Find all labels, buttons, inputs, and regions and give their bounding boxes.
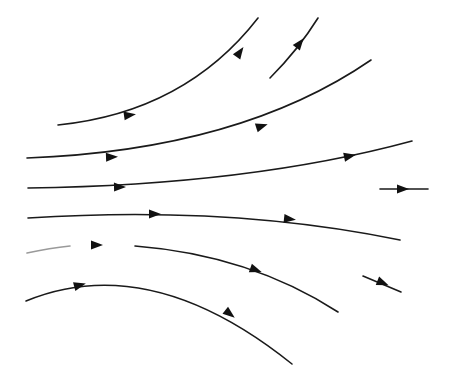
arrowhead-icon [91, 241, 103, 250]
arrowhead-icon [249, 264, 263, 277]
streamline-5 [380, 185, 428, 194]
streamline-path [135, 246, 338, 312]
arrowhead-icon [376, 277, 390, 290]
streamline-diagram [0, 0, 449, 386]
arrowhead-icon [73, 279, 87, 291]
streamline-path [26, 285, 292, 364]
arrowhead-icon [397, 185, 409, 194]
streamline-path [58, 18, 258, 125]
streamline-8 [363, 276, 401, 292]
streamline-4 [28, 141, 412, 192]
arrowhead-icon [233, 45, 247, 60]
arrowhead-icon [114, 182, 126, 191]
streamline-1 [58, 18, 258, 125]
streamline-6 [28, 210, 400, 241]
streamline-9 [26, 279, 292, 364]
streamline-2 [270, 18, 318, 78]
arrowhead-icon [343, 150, 357, 161]
arrowhead-icon [106, 152, 118, 161]
arrowhead-icon [149, 210, 161, 219]
arrowhead-icon [255, 120, 269, 132]
flow-field-canvas [0, 0, 449, 386]
streamline-7 [27, 241, 338, 313]
streamline-path [270, 18, 318, 78]
streamline-path [28, 214, 400, 240]
streamline-path [28, 141, 412, 188]
faded-streamline-segment [27, 246, 70, 253]
